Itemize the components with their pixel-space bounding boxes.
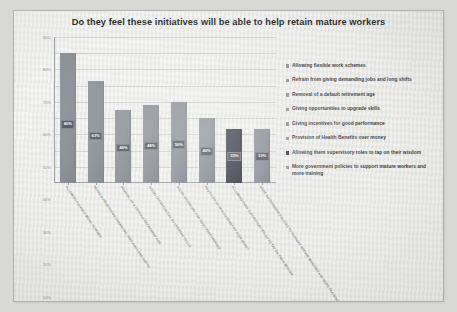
y-axis-tick-label: 80% (43, 67, 51, 72)
bar-slot: 48% (137, 37, 165, 183)
bar-value-label: 48% (144, 142, 158, 151)
legend-item[interactable]: Provision of Health Benefits over money (286, 135, 436, 142)
bar-slot: 45% (110, 37, 138, 183)
bar[interactable]: 33% (226, 129, 242, 183)
legend-item-label: Refrain from giving demanding jobs and l… (292, 77, 412, 84)
legend-item[interactable]: Giving incentives for good performance (286, 121, 436, 128)
bar-slot: 50% (165, 37, 193, 183)
x-label-slot: ALLOWING THEM SUPERVISORY ROLES TO TAP O… (234, 185, 235, 186)
legend-item-label: Removal of a default retirement age (292, 92, 375, 99)
bar[interactable]: 63% (88, 81, 104, 183)
x-label-slot: REFRAIN FROM GIVING DEMANDING JOBS AND L… (96, 185, 97, 186)
bar-slot: 63% (82, 37, 110, 183)
bar[interactable]: 48% (143, 105, 159, 183)
bar-value-label: 63% (89, 132, 103, 141)
x-axis-labels: ALLOWING FLEXIBLE WORK SCHEMESREFRAIN FR… (54, 185, 276, 263)
x-label-slot: MORE GOVERNMENT POLICIES TO SUPPORT MATU… (262, 185, 263, 186)
legend-swatch-icon (286, 79, 289, 82)
x-label-slot: ALLOWING FLEXIBLE WORK SCHEMES (68, 185, 69, 186)
x-axis-category-label: ALLOWING THEM SUPERVISORY ROLES TO TAP O… (231, 185, 294, 276)
bar[interactable]: 80% (60, 53, 76, 183)
x-axis-category-label: PROVISION OF HEALTH BENEFITS OVER MONEY (203, 185, 249, 251)
legend-item[interactable]: Allowing flexible work schemes (286, 63, 436, 70)
legend-item-label: More government policies to support matu… (292, 164, 436, 178)
bar-series: 80%63%45%48%50%40%33%33% (54, 37, 276, 183)
bar[interactable]: 50% (171, 102, 187, 183)
y-axis-tick-label: 50% (43, 164, 51, 169)
y-axis-tick-label: 90% (43, 35, 51, 40)
y-axis-tick-label: 40% (43, 197, 51, 202)
chart-legend: Allowing flexible work schemesRefrain fr… (286, 63, 436, 186)
legend-swatch-icon (286, 93, 289, 96)
legend-swatch-icon (286, 166, 289, 169)
legend-item-label: Allowing flexible work schemes (292, 63, 366, 70)
legend-swatch-icon (286, 151, 289, 154)
plot-area: 90%80%70%60%50%40%30%20%10%0% 80%63%45%4… (54, 37, 276, 183)
legend-swatch-icon (286, 122, 289, 125)
chart-title: Do they feel these initiatives will be a… (14, 17, 443, 27)
bar-value-label: 33% (228, 152, 242, 161)
y-axis-tick-label: 10% (43, 294, 51, 299)
legend-swatch-icon (286, 137, 289, 140)
bar-slot: 80% (54, 37, 82, 183)
y-axis-tick-label: 30% (43, 229, 51, 234)
legend-item[interactable]: Removal of a default retirement age (286, 92, 436, 99)
legend-item-label: Allowing them supervisory roles to tap o… (292, 150, 421, 157)
legend-item[interactable]: Allowing them supervisory roles to tap o… (286, 150, 436, 157)
bar[interactable]: 45% (115, 110, 131, 183)
legend-item[interactable]: More government policies to support matu… (286, 164, 436, 178)
bar-slot: 40% (193, 37, 221, 183)
x-label-slot: GIVING INCENTIVES FOR GOOD PERFORMANCE (179, 185, 180, 186)
legend-swatch-icon (286, 64, 289, 67)
bar-slot: 33% (248, 37, 276, 183)
legend-item-label: Giving opportunities to upgrade skills (292, 106, 380, 113)
legend-item-label: Provision of Health Benefits over money (292, 135, 386, 142)
bar[interactable]: 40% (199, 118, 215, 183)
x-label-slot: REMOVAL OF A DEFAULT RETIREMENT AGE (123, 185, 124, 186)
legend-item[interactable]: Giving opportunities to upgrade skills (286, 106, 436, 113)
y-axis-tick-label: 20% (43, 262, 51, 267)
legend-item[interactable]: Refrain from giving demanding jobs and l… (286, 77, 436, 84)
grid-line: 0% (54, 183, 276, 184)
bar[interactable]: 33% (254, 129, 270, 183)
x-axis-category-label: REFRAIN FROM GIVING DEMANDING JOBS AND L… (92, 185, 150, 269)
x-label-slot: GIVING OPPORTUNITIES TO UPGRADE SKILLS (151, 185, 152, 186)
legend-swatch-icon (286, 108, 289, 111)
y-axis-tick-label: 60% (43, 132, 51, 137)
bar-slot: 33% (221, 37, 249, 183)
x-axis-category-label: GIVING INCENTIVES FOR GOOD PERFORMANCE (176, 185, 222, 251)
bar-value-label: 50% (172, 140, 186, 149)
bar-value-label: 33% (255, 152, 269, 161)
legend-item-label: Giving incentives for good performance (292, 121, 385, 128)
y-axis-tick-label: 70% (43, 99, 51, 104)
bar-value-label: 80% (61, 120, 75, 129)
x-label-slot: PROVISION OF HEALTH BENEFITS OVER MONEY (207, 185, 208, 186)
bar-value-label: 40% (200, 147, 214, 156)
slide-frame: Do they feel these initiatives will be a… (14, 11, 443, 301)
bar-value-label: 45% (117, 144, 131, 153)
